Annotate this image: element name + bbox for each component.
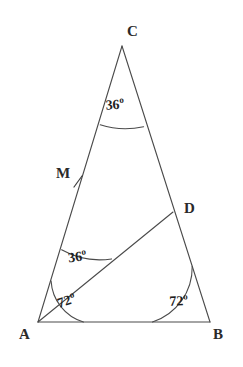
angle-value-at-C: 36 [105,97,120,113]
segment-side-CB [122,46,210,322]
angle-arc-at-C [100,125,143,129]
vertex-label-C: C [127,24,138,39]
segment-side-AC [38,46,122,322]
angle-label-at-C: 36o [105,96,125,113]
geometry-figure: C A B D M 36o 36o 72o 72o [0,0,243,367]
angle-label-CAD: 36o [67,247,87,265]
degree-symbol-at-C: o [119,95,124,105]
point-label-M: M [56,166,70,181]
degree-symbol-at-B: o [183,291,188,301]
vertex-label-D: D [184,201,195,216]
geometry-canvas [0,0,243,367]
angle-label-at-B: 72o [169,292,188,308]
vertex-label-B: B [213,327,223,342]
angle-value-at-B: 72 [169,293,184,308]
degree-symbol-CAD: o [81,246,87,257]
vertex-label-A: A [19,327,30,342]
triangle-outline [38,46,210,322]
